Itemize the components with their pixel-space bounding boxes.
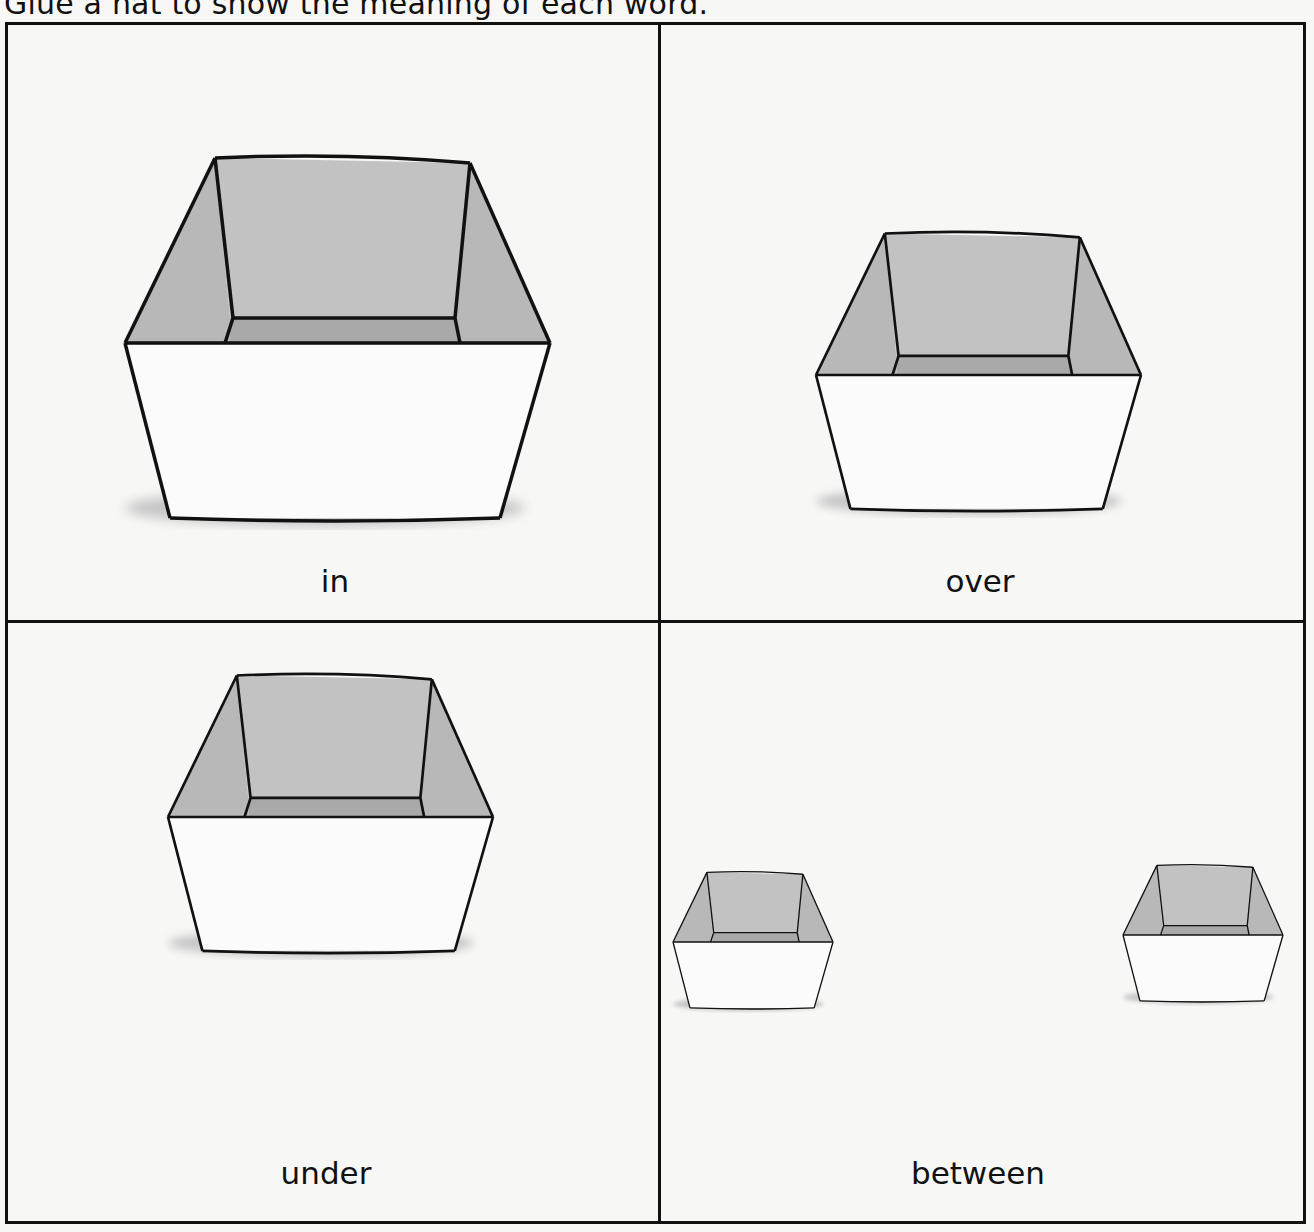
panel-over: over [658, 25, 1306, 617]
panel-in: in [8, 25, 655, 617]
box-illustration-left [673, 872, 833, 1012]
word-label-between: between [911, 1155, 1045, 1191]
word-label-in: in [321, 563, 349, 599]
box-illustration [168, 672, 493, 962]
box-illustration-right [1123, 865, 1283, 1005]
panel-between: between [658, 620, 1306, 1224]
panel-under: under [8, 620, 655, 1224]
box-illustration [816, 230, 1141, 520]
box-illustration [125, 158, 550, 528]
instruction-text: Glue a hat to show the meaning of each w… [4, 0, 708, 21]
word-label-over: over [945, 563, 1014, 599]
word-label-under: under [281, 1155, 372, 1191]
